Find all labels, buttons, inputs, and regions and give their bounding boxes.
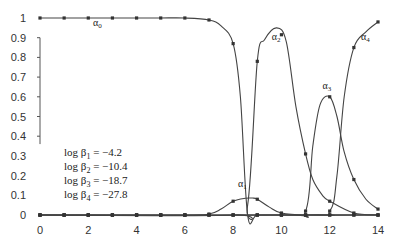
x-tick-label: 2 [85,224,91,236]
data-point-marker [256,60,259,63]
data-point-marker [304,152,307,155]
y-tick-label: 0.1 [11,189,26,201]
curve-label-α0: α0 [93,17,102,30]
data-point-marker [280,213,283,216]
log-beta-3: log β3 = −18.7 [64,174,128,189]
data-point-marker [328,95,331,98]
data-point-marker [63,213,66,216]
y-tick-label: 1 [20,12,26,24]
data-point-marker [328,209,331,212]
curve-label-α3: α3 [322,80,331,93]
data-point-marker [352,46,355,49]
data-point-marker [159,213,162,216]
data-point-marker [63,16,66,19]
data-point-marker [159,16,162,19]
data-point-marker [232,213,235,216]
data-point-marker [135,16,138,19]
y-tick-label: 0.3 [11,150,26,162]
data-point-marker [232,42,235,45]
x-tick-label: 4 [134,224,140,236]
y-tick-label: 0.8 [11,51,26,63]
data-point-marker [376,207,379,210]
data-point-marker [376,20,379,23]
y-tick-label: 0.2 [11,170,26,182]
data-point-marker [328,213,331,216]
curve-label-α2: α2 [272,31,281,44]
data-point-marker [256,213,259,216]
data-point-marker [111,213,114,216]
curve-label-α1: α1 [238,178,247,191]
data-point-marker [87,16,90,19]
data-point-marker [183,16,186,19]
data-point-marker [207,213,210,216]
data-point-marker [38,16,41,19]
tick-labels: 0246810121400.10.20.30.40.50.60.70.80.91 [11,12,384,236]
data-point-marker [135,213,138,216]
log-beta-4: log β4 = −27.8 [64,188,128,203]
data-point-marker [256,198,259,201]
log-beta-1: log β1 = −4.2 [64,146,122,161]
data-point-marker [304,213,307,216]
log-beta-2: log β2 = −10.4 [64,160,128,175]
log-beta-annotations: log β1 = −4.2log β2 = −10.4log β3 = −18.… [64,146,128,203]
y-tick-label: 0.5 [11,111,26,123]
data-point-marker [87,213,90,216]
y-tick-label: 0.6 [11,91,26,103]
data-point-marker [376,213,379,216]
y-tick-label: 0.9 [11,32,26,44]
curve-label-α4: α4 [361,31,370,44]
x-tick-label: 6 [182,224,188,236]
y-tick-label: 0.7 [11,71,26,83]
data-point-marker [304,209,307,212]
data-point-marker [232,200,235,203]
x-tick-label: 8 [230,224,236,236]
x-tick-label: 0 [37,224,43,236]
data-point-marker [38,213,41,216]
y-tick-label: 0.4 [11,130,26,142]
data-point-marker [207,18,210,21]
data-point-marker [352,211,355,214]
curve-α4 [40,22,378,215]
data-point-marker [352,178,355,181]
x-tick-label: 12 [324,224,336,236]
data-point-marker [328,200,331,203]
y-tick-label: 0 [20,209,26,221]
data-point-marker [111,16,114,19]
data-point-marker [183,213,186,216]
x-tick-label: 14 [372,224,384,236]
species-distribution-chart: 0246810121400.10.20.30.40.50.60.70.80.91… [0,0,399,247]
x-tick-label: 10 [275,224,287,236]
